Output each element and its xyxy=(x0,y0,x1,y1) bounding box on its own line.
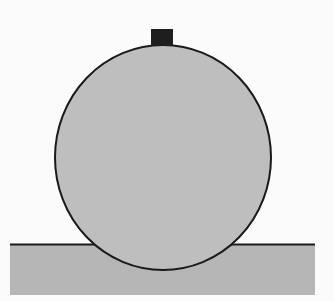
ball xyxy=(55,45,271,270)
top-block xyxy=(151,29,173,46)
ball-on-surface-diagram xyxy=(0,0,334,301)
